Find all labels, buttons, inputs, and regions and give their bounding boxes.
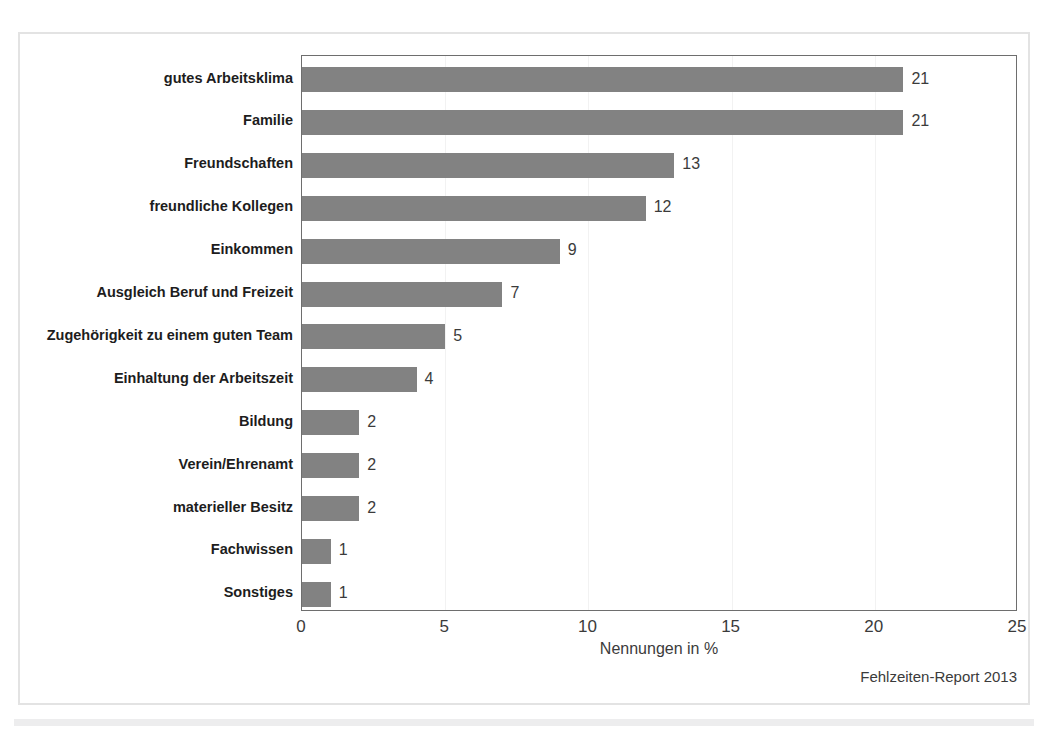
category-label: Ausgleich Beruf und Freizeit (0, 284, 293, 300)
bar-value-label: 9 (568, 241, 577, 259)
category-label: Freundschaften (0, 155, 293, 171)
category-label: Bildung (0, 413, 293, 429)
bar-value-label: 2 (367, 499, 376, 517)
x-tick-label: 20 (864, 617, 883, 637)
bar-row (302, 582, 1018, 607)
bar (302, 496, 359, 521)
bar-chart: gutes ArbeitsklimaFamilieFreundschaftenf… (0, 0, 1048, 729)
bar-value-label: 2 (367, 456, 376, 474)
x-tick-label: 0 (296, 617, 305, 637)
bar (302, 539, 331, 564)
bar (302, 367, 417, 392)
category-label: freundliche Kollegen (0, 198, 293, 214)
x-tick-label: 5 (439, 617, 448, 637)
bar-value-label: 12 (654, 198, 672, 216)
bar-row (302, 496, 1018, 521)
x-tick-label: 25 (1008, 617, 1027, 637)
category-label: Sonstiges (0, 584, 293, 600)
bar (302, 453, 359, 478)
plot-area (301, 55, 1017, 611)
category-label: Verein/Ehrenamt (0, 456, 293, 472)
source-note: Fehlzeiten-Report 2013 (0, 668, 1017, 685)
bar (302, 282, 502, 307)
category-label: Einkommen (0, 241, 293, 257)
bar-row (302, 367, 1018, 392)
bar (302, 410, 359, 435)
bar (302, 582, 331, 607)
bar-value-label: 13 (682, 155, 700, 173)
bar (302, 153, 674, 178)
bar-row (302, 410, 1018, 435)
bar-value-label: 1 (339, 541, 348, 559)
x-tick-label: 15 (721, 617, 740, 637)
bar-value-label: 1 (339, 584, 348, 602)
category-label: Familie (0, 112, 293, 128)
category-label: materieller Besitz (0, 499, 293, 515)
bar (302, 239, 560, 264)
bar (302, 324, 445, 349)
bar-row (302, 153, 1018, 178)
bar (302, 67, 903, 92)
bar-value-label: 5 (453, 327, 462, 345)
bar-row (302, 539, 1018, 564)
bar-row (302, 282, 1018, 307)
category-label: Einhaltung der Arbeitszeit (0, 370, 293, 386)
bar-row (302, 324, 1018, 349)
bar-value-label: 21 (911, 70, 929, 88)
bar (302, 196, 646, 221)
category-label: Zugehörigkeit zu einem guten Team (0, 327, 293, 343)
x-axis-title: Nennungen in % (301, 640, 1017, 658)
bar-row (302, 453, 1018, 478)
category-label: gutes Arbeitsklima (0, 70, 293, 86)
bar-value-label: 7 (510, 284, 519, 302)
x-tick-label: 10 (578, 617, 597, 637)
bar-value-label: 2 (367, 413, 376, 431)
bar (302, 110, 903, 135)
bar-value-label: 21 (911, 112, 929, 130)
bar-row (302, 239, 1018, 264)
category-label: Fachwissen (0, 541, 293, 557)
bar-value-label: 4 (425, 370, 434, 388)
